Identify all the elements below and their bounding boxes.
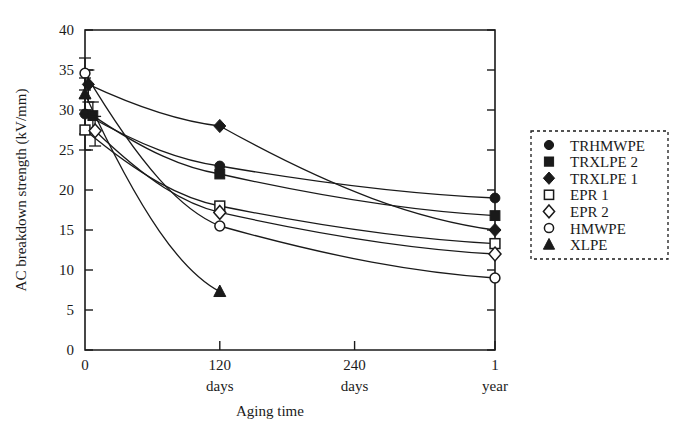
chart-legend: TRHMWPETRXLPE 2TRXLPE 1EPR 1EPR 2HMWPEXL… (531, 131, 668, 259)
series-trxlpe-2 (87, 102, 500, 221)
legend-item-label: TRXLPE 1 (570, 171, 638, 187)
legend-item-label: EPR 2 (570, 204, 609, 220)
chart-figure: 0510152025303540 0120days240days1year AC… (0, 0, 683, 433)
y-tick-label: 25 (59, 142, 74, 158)
data-point-marker (544, 223, 553, 232)
plot-frame (85, 30, 495, 350)
data-point-marker (215, 169, 225, 179)
y-axis: 0510152025303540 (59, 22, 495, 358)
data-point-marker (544, 157, 553, 166)
series-curve (95, 131, 495, 254)
y-tick-label: 10 (59, 262, 74, 278)
data-point-marker (80, 125, 90, 135)
y-tick-label: 20 (59, 182, 74, 198)
data-point-marker (214, 285, 226, 297)
data-point-marker (214, 119, 226, 132)
data-point-marker (490, 211, 500, 221)
x-axis: 0120days240days1year (81, 341, 508, 394)
data-point-marker (490, 193, 500, 203)
data-series-layer (79, 58, 501, 297)
data-point-marker (490, 273, 500, 283)
series-trhmwpe (79, 98, 500, 203)
axis-titles: AC breakdown strength (kV/mm)Aging time (13, 89, 304, 419)
legend-item-label: EPR 1 (570, 187, 609, 203)
data-point-marker (544, 140, 553, 149)
x-tick-sublabel: days (341, 378, 369, 394)
y-tick-label: 30 (59, 102, 74, 118)
x-tick-label: 0 (81, 357, 89, 373)
series-curve (85, 114, 495, 198)
legend-item-label: TRXLPE 2 (570, 154, 638, 170)
data-point-marker (544, 190, 553, 199)
x-tick-label: 240 (343, 357, 366, 373)
y-tick-label: 5 (67, 302, 75, 318)
series-epr-1 (79, 114, 500, 249)
y-tick-label: 35 (59, 62, 74, 78)
x-axis-title: Aging time (236, 403, 304, 419)
legend-item-label: XLPE (570, 237, 608, 253)
y-tick-label: 40 (59, 22, 74, 38)
data-point-marker (80, 68, 90, 78)
series-curve (93, 116, 495, 216)
y-tick-label: 0 (67, 342, 75, 358)
data-point-marker (489, 223, 501, 236)
x-tick-sublabel: year (482, 378, 508, 394)
plot-border (85, 30, 495, 350)
x-tick-label: 1 (491, 357, 499, 373)
legend-item-label: TRHMWPE (570, 138, 645, 154)
series-curve (88, 84, 495, 230)
x-tick-sublabel: days (206, 378, 234, 394)
x-tick-label: 120 (209, 357, 232, 373)
chart-canvas: 0510152025303540 0120days240days1year AC… (0, 0, 683, 433)
y-tick-label: 15 (59, 222, 74, 238)
legend-item-label: HMWPE (570, 221, 626, 237)
data-point-marker (215, 221, 225, 231)
y-axis-title: AC breakdown strength (kV/mm) (13, 89, 30, 292)
